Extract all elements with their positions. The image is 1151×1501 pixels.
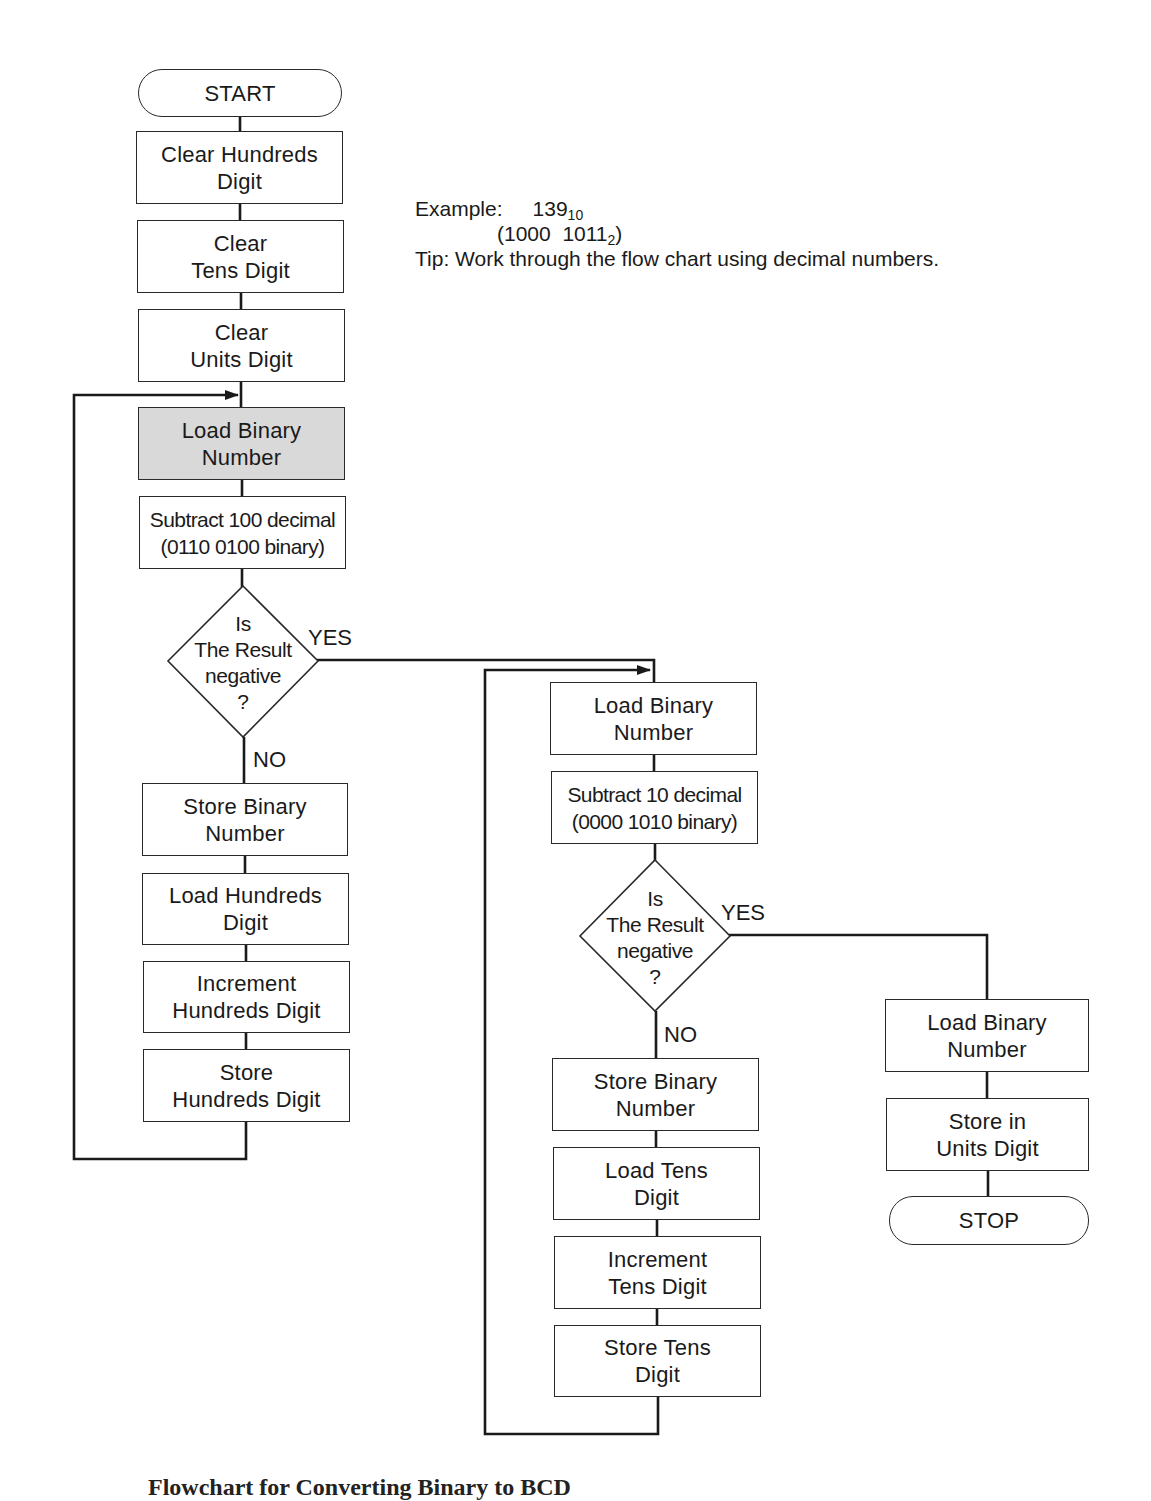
decision-2-yes-label: YES	[721, 901, 765, 925]
store-in-units-digit-step: Store in Units Digit	[886, 1098, 1089, 1171]
increment-tens-digit-step: Increment Tens Digit	[554, 1236, 761, 1309]
subtract-100-step: Subtract 100 decimal (0110 0100 binary)	[139, 496, 346, 569]
example-binary: (1000 10112)	[497, 221, 622, 246]
clear-tens-digit-step: Clear Tens Digit	[137, 220, 344, 293]
clear-units-digit-step: Clear Units Digit	[138, 309, 345, 382]
start-terminator: START	[138, 69, 342, 117]
subtract-10-step: Subtract 10 decimal (0000 1010 binary)	[551, 771, 758, 844]
increment-hundreds-digit-step: Increment Hundreds Digit	[143, 961, 350, 1033]
store-tens-digit-step: Store Tens Digit	[554, 1325, 761, 1397]
stop-terminator: STOP	[889, 1196, 1089, 1245]
load-tens-digit-step: Load Tens Digit	[553, 1147, 760, 1220]
store-binary-number-step-2: Store Binary Number	[552, 1058, 759, 1131]
decision-2-label: Is The Result negative ?	[595, 886, 715, 990]
decision-1-label: Is The Result negative ?	[183, 611, 303, 715]
clear-hundreds-digit-step: Clear Hundreds Digit	[136, 131, 343, 204]
load-hundreds-digit-step: Load Hundreds Digit	[142, 873, 349, 945]
decision-1-yes-label: YES	[308, 626, 352, 650]
store-binary-number-step-1: Store Binary Number	[142, 783, 348, 856]
load-binary-number-step-1: Load Binary Number	[138, 407, 345, 480]
example-label: Example:	[415, 197, 503, 220]
example-decimal: 139	[533, 197, 568, 220]
load-binary-number-step-3: Load Binary Number	[885, 999, 1089, 1072]
example-note: Example:13910	[415, 196, 583, 221]
figure-caption: Flowchart for Converting Binary to BCD	[148, 1474, 571, 1501]
decision-2-no-label: NO	[664, 1023, 697, 1047]
decision-1-no-label: NO	[253, 748, 286, 772]
load-binary-number-step-2: Load Binary Number	[550, 682, 757, 755]
tip-text: Tip: Work through the flow chart using d…	[415, 246, 939, 271]
store-hundreds-digit-step: Store Hundreds Digit	[143, 1049, 350, 1122]
